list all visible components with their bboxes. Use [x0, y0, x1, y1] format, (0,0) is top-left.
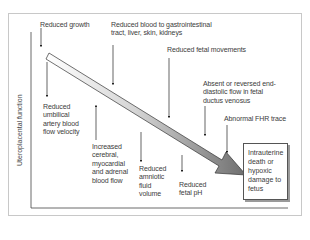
- label-cerebral: Increased cerebral, myocardial and adren…: [92, 143, 128, 185]
- label-amniotic: Reduced amniotic fluid volume: [139, 165, 166, 199]
- y-axis-label: Uteroplacental function: [16, 94, 23, 166]
- outcome-box: Intrauterine death or hypoxic damage to …: [243, 143, 288, 200]
- label-fetal-movements: Reduced fetal movements: [167, 46, 246, 54]
- label-reduced-growth: Reduced growth: [40, 21, 90, 29]
- label-ductus-venosus: Absent or reversed end- diastolic flow i…: [203, 80, 276, 105]
- label-abnormal-fhr: Abnormal FHR trace: [224, 115, 286, 123]
- label-ph: Reduced fetal pH: [179, 181, 206, 198]
- label-umbilical: Reduced umbilical artery blood flow velo…: [43, 103, 79, 137]
- label-gi-blood: Reduced blood to gastrointestinal tract,…: [111, 21, 212, 38]
